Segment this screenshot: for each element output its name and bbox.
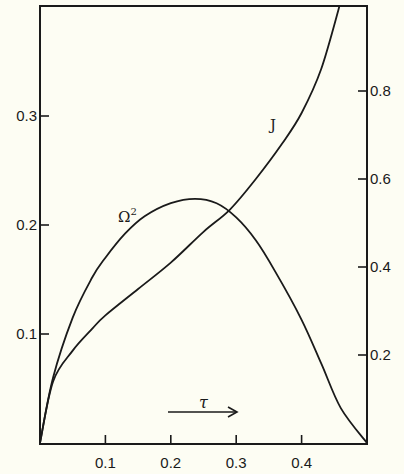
x-tick-label: 0.1 <box>95 454 116 471</box>
right-y-tick-label: 0.6 <box>370 170 391 187</box>
j-curve <box>40 6 340 443</box>
x-tick-label: 0.2 <box>160 454 181 471</box>
right-y-tick-label: 0.2 <box>370 346 391 363</box>
plot-frame <box>39 6 368 444</box>
right-y-axis-ticks: 0.20.40.60.8 <box>358 82 391 363</box>
x-axis-ticks: 0.10.20.30.4 <box>95 435 312 471</box>
chart-svg: 0.10.20.30.4 0.10.20.3 0.20.40.60.8 Ω2 J… <box>0 0 404 474</box>
tau-label: τ <box>199 393 209 412</box>
chart-figure: 0.10.20.30.4 0.10.20.3 0.20.40.60.8 Ω2 J… <box>0 0 404 474</box>
right-y-tick-label: 0.8 <box>370 82 391 99</box>
x-tick-label: 0.4 <box>291 454 312 471</box>
left-y-tick-label: 0.3 <box>16 107 37 124</box>
x-tick-label: 0.3 <box>226 454 247 471</box>
left-y-axis-ticks: 0.10.20.3 <box>16 107 49 342</box>
right-y-tick-label: 0.4 <box>370 258 391 275</box>
tau-direction-arrow: τ <box>168 393 237 417</box>
j-label: J <box>268 116 276 134</box>
omega-squared-label: Ω2 <box>118 206 137 226</box>
left-y-tick-label: 0.2 <box>16 216 37 233</box>
left-y-tick-label: 0.1 <box>16 325 37 342</box>
